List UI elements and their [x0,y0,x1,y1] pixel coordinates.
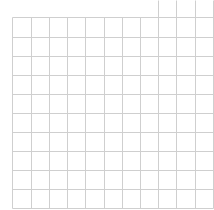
grid-canvas [0,0,214,210]
grid-lines [0,0,214,210]
